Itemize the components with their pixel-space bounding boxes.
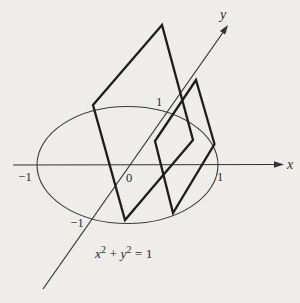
unit-circle-cross-sections-figure: y x −1 0 1 1 −1 x2 + y2 = 1 — [0, 0, 300, 303]
x-tick-label-one: 1 — [217, 170, 223, 184]
y-tick-label-minus-one: −1 — [70, 216, 83, 230]
origin-label: 0 — [126, 171, 132, 185]
x-axis-line — [13, 165, 276, 166]
equation-x-var: x — [94, 246, 101, 261]
textbook-figure-page: y x −1 0 1 1 −1 x2 + y2 = 1 — [0, 0, 300, 303]
y-tick-label-one: 1 — [156, 95, 162, 109]
x-axis-label: x — [286, 157, 294, 172]
equation-plus-sign: + — [106, 246, 120, 261]
x-tick-label-minus-one: −1 — [18, 170, 31, 184]
y-axis-label: y — [218, 7, 227, 22]
equation-equals-one: = 1 — [131, 246, 152, 261]
equation-y-var: y — [118, 246, 126, 261]
